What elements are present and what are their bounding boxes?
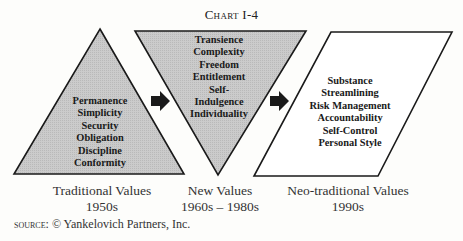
value-item: Security bbox=[60, 120, 140, 132]
stage-period: 1990s bbox=[283, 199, 413, 215]
value-item: Risk Management bbox=[300, 100, 400, 112]
value-item: Self- bbox=[178, 84, 260, 96]
value-item: Substance bbox=[300, 75, 400, 87]
source-prefix: source: bbox=[14, 217, 49, 231]
value-item: Individuality bbox=[178, 108, 260, 120]
stage-period: 1960s – 1980s bbox=[170, 199, 270, 215]
value-item: Obligation bbox=[60, 132, 140, 144]
value-item: Self-Control bbox=[300, 125, 400, 137]
value-item: Freedom bbox=[178, 59, 260, 71]
neo-traditional-values-caption: Neo-traditional Values 1990s bbox=[283, 183, 413, 215]
new-values-caption: New Values 1960s – 1980s bbox=[170, 183, 270, 215]
value-item: Entitlement bbox=[178, 71, 260, 83]
value-item: Complexity bbox=[178, 46, 260, 58]
neo-traditional-values-list: Substance Streamlining Risk Management A… bbox=[300, 75, 400, 149]
value-item: Permanence bbox=[60, 95, 140, 107]
traditional-values-list: Permanence Simplicity Security Obligatio… bbox=[60, 95, 140, 169]
traditional-values-caption: Traditional Values 1950s bbox=[40, 183, 164, 215]
value-item: Indulgence bbox=[178, 96, 260, 108]
value-item: Streamlining bbox=[300, 87, 400, 99]
value-item: Simplicity bbox=[60, 107, 140, 119]
stage-label: Neo-traditional Values bbox=[283, 183, 413, 199]
stage-label: New Values bbox=[170, 183, 270, 199]
source-note: source: © Yankelovich Partners, Inc. bbox=[14, 217, 190, 232]
value-item: Discipline bbox=[60, 145, 140, 157]
new-values-list: Transience Complexity Freedom Entitlemen… bbox=[178, 34, 260, 121]
value-item: Conformity bbox=[60, 157, 140, 169]
arrow-right-icon bbox=[151, 91, 170, 111]
arrow-right-icon bbox=[270, 91, 289, 111]
value-item: Accountability bbox=[300, 112, 400, 124]
stage-label: Traditional Values bbox=[40, 183, 164, 199]
stage-period: 1950s bbox=[40, 199, 164, 215]
source-text: © Yankelovich Partners, Inc. bbox=[52, 217, 190, 231]
value-item: Personal Style bbox=[300, 137, 400, 149]
value-item: Transience bbox=[178, 34, 260, 46]
